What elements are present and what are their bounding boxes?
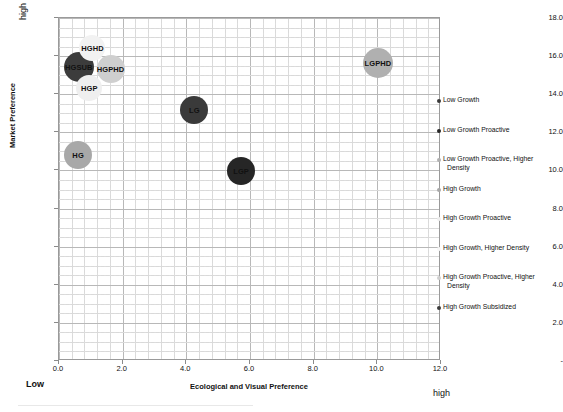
gridline-vertical-minor [135, 18, 136, 359]
x-axis-low-label: Low [26, 379, 44, 389]
gridline-vertical-major [59, 18, 60, 359]
gridline-vertical-minor [212, 18, 213, 359]
gridline-vertical-minor [174, 18, 175, 359]
legend-label: Low Growth Proactive [443, 126, 557, 135]
legend-marker-dot-icon [437, 306, 441, 310]
legend-label-line2: Density [443, 282, 557, 291]
legend-item[interactable]: High Growth [437, 185, 557, 194]
y-axis-tick-label: - [511, 356, 563, 365]
x-axis-tick-mark [440, 360, 441, 364]
legend-item[interactable]: High Growth, Higher Density [437, 244, 557, 253]
x-axis-tick-label: 12.0 [418, 364, 462, 373]
gridline-horizontal-major [59, 285, 439, 286]
gridline-horizontal-minor [59, 123, 439, 124]
gridline-vertical-minor [225, 18, 226, 359]
x-axis-title: Ecological and Visual Preference [58, 382, 440, 391]
y-axis-title: Market Preference [8, 83, 17, 148]
bubble-label-hghd: HGHD [81, 43, 103, 52]
bubble-chart: high Market Preference -2.04.06.08.010.0… [0, 0, 563, 412]
y-axis-tick-label: 8.0 [511, 203, 563, 212]
legend-item[interactable]: High Growth Proactive, HigherDensity [437, 273, 557, 290]
x-axis-tick-label: 0.0 [36, 364, 80, 373]
legend-label: High Growth Proactive, HigherDensity [443, 273, 557, 290]
gridline-horizontal-minor [59, 294, 439, 295]
x-axis-tick-label: 6.0 [227, 364, 271, 373]
gridline-vertical-minor [416, 18, 417, 359]
bubble-label-lg: LG [189, 106, 200, 115]
legend-marker-dot-icon [437, 276, 441, 280]
legend-item[interactable]: Low Growth Proactive [437, 126, 557, 135]
legend-item[interactable]: High Growth Proactive [437, 214, 557, 223]
gridline-vertical-minor [288, 18, 289, 359]
bubble-label-hgsub: HGSUB [65, 62, 93, 71]
legend-marker-dot-icon [437, 217, 441, 221]
x-axis-tick-label: 2.0 [100, 364, 144, 373]
legend-marker-dot-icon [437, 129, 441, 133]
legend-marker-dot-icon [437, 247, 441, 251]
x-axis-tick-mark [313, 360, 314, 364]
gridline-horizontal-minor [59, 151, 439, 152]
gridline-horizontal-major [59, 94, 439, 95]
gridline-vertical-minor [148, 18, 149, 359]
gridline-horizontal-minor [59, 28, 439, 29]
gridline-vertical-minor [161, 18, 162, 359]
x-axis-tick-label: 4.0 [163, 364, 207, 373]
x-axis-tick-mark [249, 360, 250, 364]
y-axis-tick-label: 16.0 [511, 51, 563, 60]
gridline-horizontal-minor [59, 190, 439, 191]
gridline-vertical-minor [301, 18, 302, 359]
gridline-horizontal-minor [59, 228, 439, 229]
gridline-horizontal-major [59, 209, 439, 210]
gridline-horizontal-major [59, 323, 439, 324]
legend-label: High Growth, Higher Density [443, 244, 557, 253]
gridline-vertical-minor [403, 18, 404, 359]
legend-item[interactable]: Low Growth Proactive, HigherDensity [437, 155, 557, 172]
x-axis-high-label: high [433, 388, 450, 398]
gridline-horizontal-minor [59, 256, 439, 257]
x-axis-tick-mark [185, 360, 186, 364]
bottom-divider [18, 405, 253, 406]
bubble-label-lgphd: LGPHD [365, 58, 392, 67]
bubble-label-hg: HG [72, 151, 83, 160]
legend-marker-dot-icon [437, 188, 441, 192]
gridline-vertical-major [186, 18, 187, 359]
legend-label: High Growth Subsidized [443, 303, 557, 312]
gridline-vertical-minor [428, 18, 429, 359]
y-axis-tick-label: 18.0 [511, 13, 563, 22]
y-axis-high-label: high [18, 3, 28, 20]
gridline-vertical-minor [237, 18, 238, 359]
gridline-horizontal-minor [59, 313, 439, 314]
gridline-horizontal-minor [59, 237, 439, 238]
gridline-horizontal-minor [59, 37, 439, 38]
legend-item[interactable]: Low Growth [437, 96, 557, 105]
gridline-horizontal-minor [59, 199, 439, 200]
x-axis-tick-label: 8.0 [291, 364, 335, 373]
x-axis-tick-mark [122, 360, 123, 364]
legend-marker-dot-icon [437, 158, 441, 162]
gridline-vertical-minor [339, 18, 340, 359]
x-axis-tick-mark [376, 360, 377, 364]
gridline-horizontal-minor [59, 275, 439, 276]
legend-label: Low Growth Proactive, HigherDensity [443, 155, 557, 172]
gridline-horizontal-minor [59, 113, 439, 114]
legend-marker-dot-icon [437, 99, 441, 103]
bubble-label-hgp: HGP [81, 83, 98, 92]
legend-label-line2: Density [443, 164, 557, 173]
gridline-horizontal-minor [59, 304, 439, 305]
gridline-horizontal-major [59, 247, 439, 248]
gridline-horizontal-major [59, 18, 439, 19]
gridline-vertical-minor [263, 18, 264, 359]
gridline-horizontal-minor [59, 85, 439, 86]
gridline-vertical-major [250, 18, 251, 359]
gridline-horizontal-minor [59, 266, 439, 267]
gridline-horizontal-minor [59, 342, 439, 343]
x-axis-tick-label: 10.0 [354, 364, 398, 373]
gridline-horizontal-minor [59, 218, 439, 219]
gridline-vertical-minor [326, 18, 327, 359]
gridline-vertical-major [314, 18, 315, 359]
legend-label: High Growth [443, 185, 557, 194]
gridline-vertical-minor [199, 18, 200, 359]
gridline-horizontal-minor [59, 104, 439, 105]
legend-item[interactable]: High Growth Subsidized [437, 303, 557, 312]
plot-area: HGSUBHGPHDHGHDHGPHGLGLGPLGPHD [58, 17, 440, 360]
